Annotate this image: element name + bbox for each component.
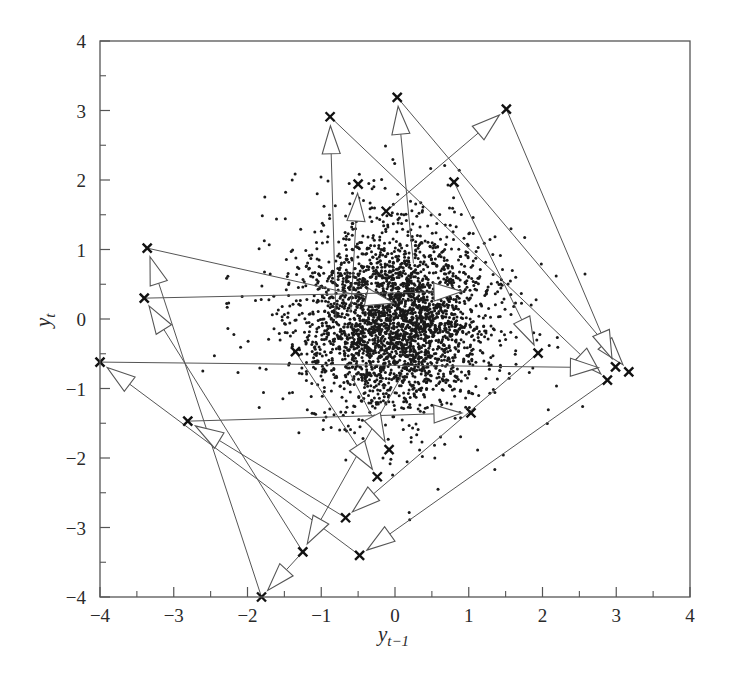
data-point: [344, 411, 347, 414]
data-point: [420, 387, 423, 390]
data-point: [444, 243, 447, 246]
data-point: [380, 380, 383, 383]
data-point: [324, 300, 327, 303]
data-point: [361, 283, 364, 286]
data-point: [295, 299, 298, 302]
data-point: [356, 314, 359, 317]
data-point: [363, 386, 366, 389]
data-point: [342, 381, 345, 384]
data-point: [450, 323, 453, 326]
data-point: [378, 218, 381, 221]
data-point: [384, 255, 387, 258]
data-point: [372, 328, 375, 331]
data-point: [422, 411, 425, 414]
data-point: [406, 341, 409, 344]
data-point: [378, 314, 381, 317]
data-point: [313, 271, 316, 274]
data-point: [438, 327, 441, 330]
data-point: [319, 348, 322, 351]
data-point: [446, 297, 449, 300]
data-point: [496, 378, 499, 381]
x-tick-label: 4: [685, 605, 695, 626]
data-point: [439, 308, 442, 311]
data-point: [460, 338, 463, 341]
data-point: [458, 301, 461, 304]
data-point: [364, 311, 367, 314]
x-marker-icon: [502, 105, 511, 114]
data-point: [461, 325, 464, 328]
data-point: [260, 284, 263, 287]
data-point: [415, 215, 418, 218]
data-point: [463, 237, 466, 240]
data-point: [392, 360, 395, 363]
data-point: [372, 267, 375, 270]
data-point: [439, 238, 442, 241]
data-point: [213, 354, 216, 357]
data-point: [399, 351, 402, 354]
data-point: [372, 350, 375, 353]
data-point: [351, 336, 354, 339]
data-point: [328, 315, 331, 318]
data-point: [327, 311, 330, 314]
data-point: [442, 379, 445, 382]
data-point: [407, 298, 410, 301]
data-point: [286, 331, 289, 334]
data-point: [477, 394, 480, 397]
data-point: [372, 316, 375, 319]
data-point: [421, 367, 424, 370]
data-point: [413, 264, 416, 267]
data-point: [428, 254, 431, 257]
data-point: [358, 281, 361, 284]
data-point: [515, 363, 518, 366]
data-point: [399, 273, 402, 276]
data-point: [388, 261, 391, 264]
data-point: [431, 241, 434, 244]
data-point: [556, 336, 559, 339]
data-point: [377, 360, 380, 363]
data-point: [406, 234, 409, 237]
data-point: [385, 392, 388, 395]
data-point: [352, 354, 355, 357]
data-point: [462, 271, 465, 274]
data-point: [323, 386, 326, 389]
data-point: [414, 298, 417, 301]
data-point: [368, 389, 371, 392]
data-point: [485, 377, 488, 380]
data-point: [520, 302, 523, 305]
data-point: [393, 316, 396, 319]
data-point: [397, 249, 400, 252]
data-point: [421, 455, 424, 458]
data-point: [440, 403, 443, 406]
data-point: [428, 271, 431, 274]
data-point: [492, 273, 495, 276]
data-point: [456, 368, 459, 371]
data-point: [469, 318, 472, 321]
data-point: [404, 272, 407, 275]
data-point: [297, 286, 300, 289]
data-point: [361, 277, 364, 280]
data-point: [382, 224, 385, 227]
data-point: [413, 392, 416, 395]
data-point: [392, 222, 395, 225]
data-point: [368, 331, 371, 334]
data-point: [420, 356, 423, 359]
data-point: [321, 324, 324, 327]
data-point: [316, 299, 319, 302]
x-tick-label: −4: [90, 605, 111, 626]
data-point: [427, 241, 430, 244]
data-point: [407, 261, 410, 264]
data-point: [397, 329, 400, 332]
data-point: [408, 380, 411, 383]
data-point: [386, 252, 389, 255]
data-point: [321, 379, 324, 382]
data-point: [443, 259, 446, 262]
data-point: [299, 228, 302, 231]
data-point: [393, 298, 396, 301]
data-point: [339, 330, 342, 333]
data-point: [327, 331, 330, 334]
data-point: [348, 275, 351, 278]
data-point: [362, 253, 365, 256]
data-point: [373, 397, 376, 400]
x-marker-icon: [355, 551, 364, 560]
data-point: [432, 388, 435, 391]
